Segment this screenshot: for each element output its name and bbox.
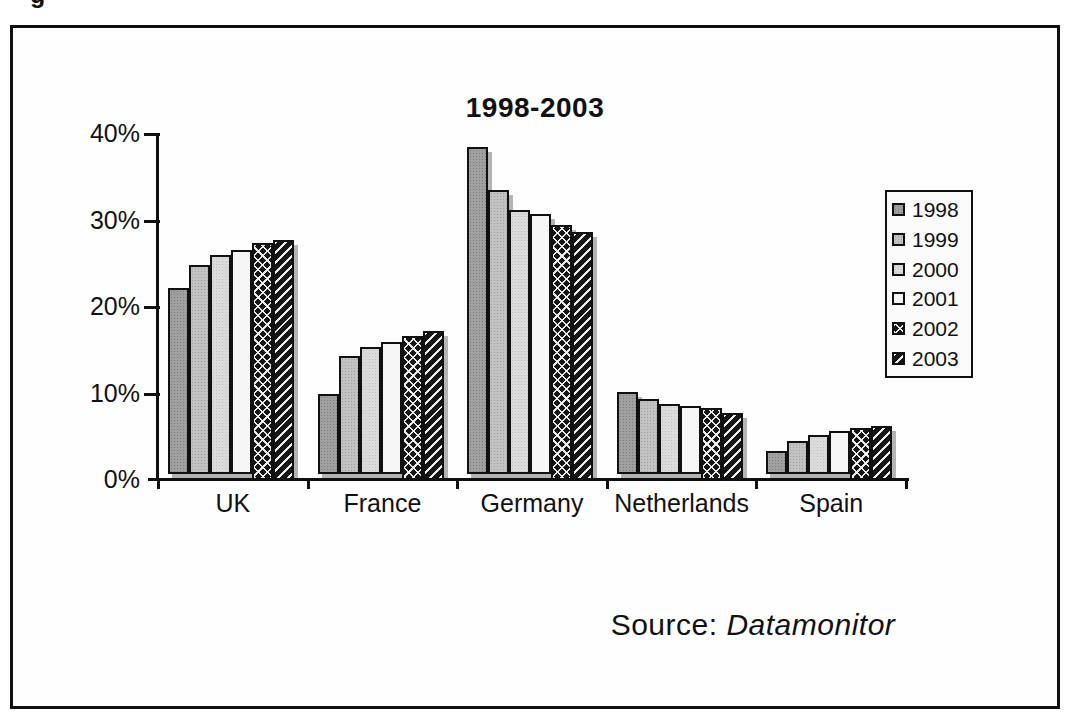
- x-axis-line: [148, 478, 909, 481]
- legend-swatch-stipple-dark-gray: [892, 203, 905, 216]
- y-tick-label-30%: 30%: [76, 206, 140, 235]
- bar-netherlands-2003: [722, 413, 743, 480]
- source-label: Source:: [611, 608, 727, 641]
- bar-netherlands-2000: [659, 404, 680, 474]
- bar-france-1999: [339, 356, 360, 474]
- bars-container: [158, 134, 906, 480]
- bar-uk-1999: [189, 265, 210, 474]
- legend-item-2003: 2003: [892, 348, 966, 369]
- bar-uk-2001: [231, 250, 252, 474]
- source-name: Datamonitor: [726, 608, 895, 641]
- bar-uk-2002: [252, 243, 273, 480]
- y-tick-label-40%: 40%: [76, 119, 140, 148]
- x-tick-4: [755, 480, 758, 489]
- legend-label: 2000: [912, 259, 959, 280]
- legend-label: 2003: [912, 348, 959, 369]
- legend-item-1999: 1999: [892, 229, 966, 250]
- bar-france-2000: [360, 347, 381, 474]
- category-label-netherlands: Netherlands: [607, 489, 757, 518]
- chart-title: 1998-2003: [13, 92, 1057, 124]
- legend-swatch-stipple-light-gray: [892, 263, 905, 276]
- bar-uk-2003: [273, 240, 294, 480]
- legend-item-2002: 2002: [892, 318, 966, 339]
- x-tick-3: [606, 480, 609, 489]
- bar-uk-1998: [168, 288, 189, 474]
- bar-france-2002: [402, 336, 423, 480]
- bar-germany-2001: [530, 214, 551, 474]
- bar-france-2001: [381, 342, 402, 474]
- plot-area: 0%10%20%30%40%UKFranceGermanyNetherlands…: [158, 134, 906, 480]
- y-tick-10%: [144, 393, 160, 396]
- x-tick-2: [456, 480, 459, 489]
- legend-label: 1999: [912, 229, 959, 250]
- category-label-spain: Spain: [756, 489, 906, 518]
- bar-spain-2000: [808, 435, 829, 474]
- legend-label: 2002: [912, 318, 959, 339]
- category-label-france: France: [308, 489, 458, 518]
- bar-spain-1999: [787, 441, 808, 474]
- bar-uk-2000: [210, 255, 231, 474]
- bar-spain-2003: [871, 426, 892, 480]
- bar-netherlands-1998: [617, 392, 638, 474]
- bar-netherlands-1999: [638, 399, 659, 474]
- x-tick-5: [905, 480, 908, 489]
- x-tick-0: [157, 480, 160, 489]
- bar-spain-2002: [850, 428, 871, 480]
- category-label-germany: Germany: [457, 489, 607, 518]
- bar-france-2003: [423, 331, 444, 480]
- legend-swatch-stipple-gray: [892, 233, 905, 246]
- legend-item-2000: 2000: [892, 259, 966, 280]
- legend-label: 2001: [912, 288, 959, 309]
- bar-germany-2003: [572, 232, 593, 480]
- bar-spain-1998: [766, 451, 787, 474]
- legend-box: 199819992000200120022003: [885, 190, 973, 378]
- bar-france-1998: [318, 394, 339, 474]
- bar-germany-2000: [509, 210, 530, 474]
- y-tick-label-20%: 20%: [76, 292, 140, 321]
- cropped-caption-fragment: g: [26, 0, 56, 9]
- y-tick-30%: [144, 220, 160, 223]
- y-tick-20%: [144, 306, 160, 309]
- x-tick-1: [307, 480, 310, 489]
- legend-item-1998: 1998: [892, 199, 966, 220]
- bar-netherlands-2001: [680, 406, 701, 474]
- y-tick-label-0%: 0%: [76, 465, 140, 494]
- bar-germany-2002: [551, 225, 572, 480]
- y-tick-40%: [144, 133, 160, 136]
- bar-germany-1998: [467, 147, 488, 474]
- bar-spain-2001: [829, 431, 850, 474]
- chart-frame: 1998-2003 0%10%20%30%40%UKFranceGermanyN…: [10, 25, 1060, 709]
- legend-swatch-black-herringbone: [892, 322, 905, 335]
- source-caption: Source: Datamonitor: [453, 608, 1053, 642]
- legend-item-2001: 2001: [892, 288, 966, 309]
- bar-netherlands-2002: [701, 408, 722, 480]
- legend-swatch-white: [892, 292, 905, 305]
- legend-label: 1998: [912, 199, 959, 220]
- bar-germany-1999: [488, 190, 509, 474]
- legend-swatch-black-diagonal: [892, 352, 905, 365]
- y-tick-label-10%: 10%: [76, 379, 140, 408]
- category-label-uk: UK: [158, 489, 308, 518]
